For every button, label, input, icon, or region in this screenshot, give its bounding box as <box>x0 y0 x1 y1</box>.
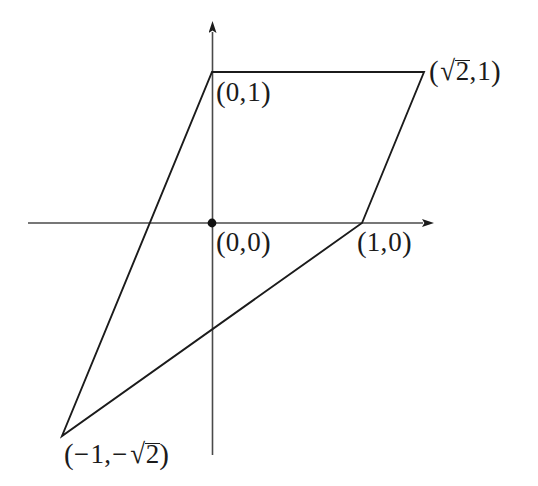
comma: , <box>104 439 112 469</box>
x-minus-sign: − <box>74 439 91 469</box>
square-root-expression: √2 <box>129 441 160 468</box>
x-value: 0 <box>226 227 240 257</box>
point-label-1-0: (1,0) <box>357 228 412 257</box>
point-label-0-1: (0,1) <box>216 78 271 107</box>
radicand: 2 <box>145 441 159 468</box>
open-paren: ( <box>429 55 439 87</box>
close-paren: ) <box>261 226 271 258</box>
close-paren: ) <box>402 226 412 258</box>
close-paren: ) <box>491 55 501 87</box>
y-value: 1 <box>247 77 261 107</box>
open-paren: ( <box>216 226 226 258</box>
point-label-neg1-negsqrt2: (−1,−√2) <box>64 440 169 469</box>
square-root-expression: √2 <box>439 58 470 85</box>
radicand: 2 <box>455 58 469 85</box>
open-paren: ( <box>216 76 226 108</box>
radical-icon: √ <box>130 441 145 469</box>
close-paren: ) <box>159 438 169 470</box>
x-value: 0 <box>226 77 240 107</box>
radical-icon: √ <box>440 58 455 86</box>
open-paren: ( <box>357 226 367 258</box>
close-paren: ) <box>261 76 271 108</box>
point-label-sqrt2-1: (√2,1) <box>429 57 501 86</box>
x-value: 1 <box>367 227 381 257</box>
point-label-origin: (0,0) <box>216 228 271 257</box>
x-value: 1 <box>91 439 105 469</box>
y-value: 0 <box>388 227 402 257</box>
y-minus-sign: − <box>112 439 129 469</box>
figure-container: (0,1) (√2,1) (0,0) (1,0) (−1,−√2) <box>0 0 538 486</box>
y-value: 1 <box>477 56 491 86</box>
open-paren: ( <box>64 438 74 470</box>
y-value: 0 <box>247 227 261 257</box>
